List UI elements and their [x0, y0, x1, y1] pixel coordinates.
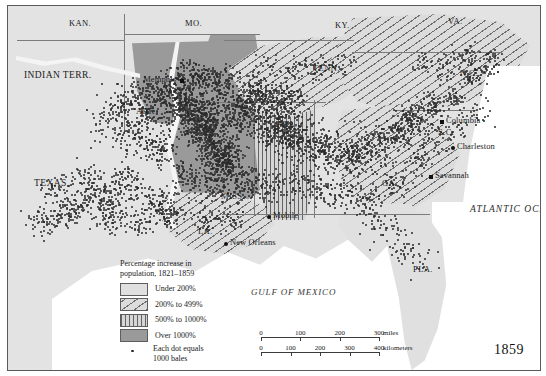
- border-nc-sc: [394, 110, 476, 111]
- legend-item-2: 500% to 1000%: [120, 313, 255, 327]
- atlantic-ocean-label: ATLANTIC OCEAN: [470, 204, 541, 214]
- state-label-indian-terr: INDIAN TERR.: [24, 70, 91, 80]
- state-label-n-c: N.C.: [460, 68, 478, 78]
- scale-km-tick-label-200: 200: [315, 344, 326, 352]
- legend-item-1: 200% to 499%: [120, 298, 255, 312]
- scale-miles-tick-label-100: 100: [295, 329, 306, 337]
- city-label-mobile: Mobile: [273, 210, 298, 220]
- year-label: 1859: [494, 342, 524, 358]
- state-label-miss: MISS.: [221, 191, 245, 201]
- city-marker-new-orleans: [224, 242, 228, 246]
- scale-km-tick-200: [320, 352, 321, 356]
- legend-item-0: Under 200%: [120, 282, 255, 296]
- map-frame: KAN.MO.KY.VA.INDIAN TERR.TENN.N.C.ARK.AL…: [7, 5, 541, 371]
- border-miss-ala: [254, 98, 255, 214]
- cotton-production-map-1859: KAN.MO.KY.VA.INDIAN TERR.TENN.N.C.ARK.AL…: [0, 0, 546, 376]
- city-label-new-orleans: New Orleans: [230, 237, 276, 247]
- scale-miles-tick-200: [340, 337, 341, 341]
- scale-miles-tick-label-200: 200: [334, 329, 345, 337]
- legend-items: Under 200%200% to 499%500% to 1000%Over …: [120, 282, 255, 343]
- legend-label-2: 500% to 1000%: [155, 315, 207, 325]
- legend-title-line2: population, 1821–1859: [120, 269, 255, 279]
- border-ala-ga: [314, 100, 315, 218]
- city-marker-columbia: [440, 120, 444, 124]
- scale-miles-tick-label-0: 0: [259, 329, 263, 337]
- state-label-fla: FLA.: [413, 264, 433, 274]
- state-label-ky: KY.: [335, 20, 350, 30]
- legend-label-0: Under 200%: [155, 284, 196, 294]
- state-label-va: VA.: [448, 16, 463, 26]
- state-label-ala: ALA.: [276, 119, 297, 129]
- legend-dot-swatch: [120, 345, 146, 356]
- florida-peninsula-cutout-east: [432, 202, 541, 371]
- scale-km-tick-label-300: 300: [344, 344, 355, 352]
- state-label-ark: ARK.: [136, 106, 158, 116]
- city-marker-charleston: [451, 146, 455, 150]
- scale-bar: 0100200300miles 0100200300400kilometers: [261, 329, 431, 359]
- legend-item-3: Over 1000%: [120, 329, 255, 343]
- legend-swatch-vertical-hatch: [120, 314, 148, 327]
- legend: Percentage increase in population, 1821–…: [120, 259, 255, 366]
- border-va-nc: [352, 52, 502, 53]
- scale-km-tick-300: [350, 352, 351, 356]
- state-label-kan: KAN.: [69, 18, 91, 28]
- scale-km-tick-label-100: 100: [285, 344, 296, 352]
- scale-miles-rule: [261, 337, 379, 338]
- scale-km-tick-400: [379, 352, 380, 356]
- city-label-memphis: Memphis: [138, 74, 176, 84]
- legend-dot-label-line2: 1000 bales: [153, 354, 204, 364]
- scale-miles-tick-300: [379, 337, 380, 341]
- city-marker-savannah: [429, 175, 433, 179]
- scale-miles-tick-0: [261, 337, 262, 341]
- legend-dot-label-line1: Each dot equals: [153, 344, 204, 354]
- city-label-columbia: Columbia: [446, 115, 480, 125]
- border-tenn-ala: [194, 102, 326, 103]
- city-label-savannah: Savannah: [435, 170, 469, 180]
- border-missouri-ark: [124, 34, 260, 35]
- border-kansas-south: [17, 40, 124, 41]
- scale-km-tick-0: [261, 352, 262, 356]
- scale-km-tick-label-0: 0: [259, 344, 263, 352]
- gulf-of-mexico-label: GULF OF MEXICO: [251, 287, 336, 297]
- legend-title-line1: Percentage increase in: [120, 259, 255, 269]
- legend-swatch-diagonal-hatch: [120, 298, 148, 311]
- state-label-la: LA.: [198, 226, 213, 236]
- city-marker-mobile: [267, 215, 271, 219]
- scale-bar-miles: 0100200300miles: [261, 329, 431, 344]
- legend-title: Percentage increase in population, 1821–…: [120, 259, 255, 278]
- state-label-s-c: S.C.: [438, 127, 454, 137]
- state-label-texas: TEXAS: [34, 178, 67, 188]
- city-label-charleston: Charleston: [457, 141, 495, 151]
- legend-dot-label: Each dot equals 1000 bales: [153, 344, 204, 363]
- state-label-mo: MO.: [185, 18, 202, 28]
- state-label-ga: GA.: [382, 178, 398, 188]
- scale-km-unit: kilometers: [383, 344, 413, 352]
- city-marker-memphis: [180, 79, 184, 83]
- scale-bar-kilometers: 0100200300400kilometers: [261, 344, 431, 359]
- border-ga-fla: [326, 214, 430, 215]
- legend-item-dot: Each dot equals 1000 bales: [120, 344, 255, 364]
- legend-label-1: 200% to 499%: [155, 300, 203, 310]
- scale-miles-tick-100: [300, 337, 301, 341]
- scale-km-tick-100: [291, 352, 292, 356]
- legend-swatch-solid-light: [120, 283, 148, 296]
- border-ky-tenn: [224, 40, 354, 41]
- scale-miles-unit: miles: [383, 329, 398, 337]
- legend-swatch-solid-dark: [120, 329, 148, 342]
- legend-label-3: Over 1000%: [155, 331, 196, 341]
- state-label-tenn: TENN.: [313, 63, 340, 73]
